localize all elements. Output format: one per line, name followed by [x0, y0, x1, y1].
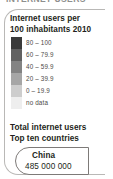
legend-range-label: 40 – 59.9 — [26, 63, 54, 70]
legend-title: Internet users per 100 inhabitants 2010 — [10, 14, 105, 35]
legend-title-line2: 100 inhabitants 2010 — [10, 25, 105, 36]
totals-title-line2: Top ten countries — [10, 134, 106, 145]
legend-range-label: 80 – 100 — [26, 39, 52, 46]
legend-title-line1: Internet users per — [10, 14, 80, 23]
legend-color-swatch-no-data — [11, 97, 22, 109]
legend-range-label: 0 – 19.9 — [26, 87, 50, 94]
legend-row: no data — [11, 97, 103, 109]
top-country-name: China — [32, 151, 55, 160]
panel-open-edge — [105, 9, 108, 177]
legend-row: 20 – 39.9 — [11, 73, 103, 85]
legend-color-swatch — [11, 61, 22, 73]
clipped-map-header: INTERNET USERS — [6, 0, 107, 8]
totals-title-line1: Total internet users — [10, 123, 86, 132]
legend-row: 40 – 59.9 — [11, 61, 103, 73]
legend-row: 60 – 79.9 — [11, 49, 103, 61]
legend-range-label: 20 – 39.9 — [26, 75, 54, 82]
legend-scale: 80 – 100 60 – 79.9 40 – 59.9 20 – 39.9 0… — [11, 37, 103, 109]
legend-row: 0 – 19.9 — [11, 85, 103, 97]
legend-color-swatch — [11, 49, 22, 61]
legend-row: 80 – 100 — [11, 37, 103, 49]
legend-range-label: 60 – 79.9 — [26, 51, 54, 58]
top-country-value: 485 000 000 — [25, 162, 72, 171]
legend-color-swatch — [11, 85, 22, 97]
top-country-callout: China 485 000 000 — [15, 147, 89, 175]
legend-color-swatch — [11, 37, 22, 49]
legend-range-label: no data — [26, 99, 48, 106]
clipped-map-header-text: INTERNET USERS — [6, 0, 107, 3]
totals-title: Total internet users Top ten countries — [10, 123, 106, 144]
legend-color-swatch — [11, 73, 22, 85]
